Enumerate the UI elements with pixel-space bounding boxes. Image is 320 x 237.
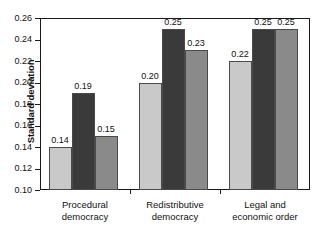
y-tick-mark — [35, 190, 40, 191]
x-group-label-line: economic order — [205, 211, 320, 223]
x-tick-mark — [220, 190, 221, 194]
x-group-label: Legal andeconomic order — [205, 199, 320, 222]
y-tick-label: 0.16 — [0, 121, 32, 130]
y-tick-label: 0.10 — [0, 186, 32, 195]
y-tick-label: 0.24 — [0, 35, 32, 44]
y-tick-label: 0.12 — [0, 164, 32, 173]
x-tick-mark — [130, 190, 131, 194]
y-tick-label: 0.20 — [0, 78, 32, 87]
x-group-label-line: Legal and — [205, 199, 320, 211]
y-tick-label: 0.26 — [0, 14, 32, 23]
plot-area — [40, 18, 310, 190]
y-tick-label: 0.14 — [0, 143, 32, 152]
y-tick-label: 0.18 — [0, 100, 32, 109]
bar-chart: Standard deviation 0.100.120.140.160.180… — [0, 0, 320, 237]
y-tick-label: 0.22 — [0, 57, 32, 66]
